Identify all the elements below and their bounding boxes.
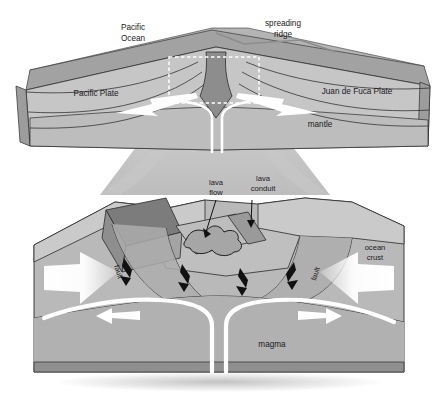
label-ocean-crust-line2: crust: [367, 253, 384, 262]
label-pacific-plate: Pacific Plate: [73, 89, 118, 98]
label-lava-conduit-line2: conduit: [251, 184, 276, 193]
block-base: [34, 362, 404, 372]
label-lava-flow-line2: flow: [209, 188, 223, 197]
label-lava-conduit-line1: lava: [256, 174, 271, 183]
label-juan-de-fuca-plate: Juan de Fuca Plate: [322, 87, 393, 96]
figure-canvas: Pacific Ocean spreading ridge Pacific Pl…: [0, 0, 438, 413]
label-pacific-ocean-line1: Pacific: [121, 23, 145, 32]
label-magma: magma: [258, 340, 286, 349]
block-shadow: [54, 372, 384, 392]
label-spreading-ridge-line1: spreading: [265, 19, 301, 28]
label-mantle: mantle: [308, 120, 333, 129]
label-ocean-crust-line1: ocean: [365, 243, 386, 252]
label-spreading-ridge-line2: ridge: [274, 30, 293, 39]
label-lava-flow-line1: lava: [209, 178, 224, 187]
spreading-ridge-diagram: Pacific Ocean spreading ridge Pacific Pl…: [0, 0, 438, 413]
label-pacific-ocean-line2: Ocean: [121, 34, 146, 43]
